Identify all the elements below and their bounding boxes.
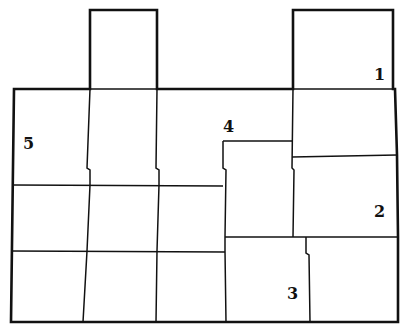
region-label-3: 3 [287, 286, 298, 302]
county-lines [12, 89, 398, 322]
region-label-2: 2 [374, 204, 385, 220]
region-label-1: 1 [374, 67, 385, 83]
region-label-4: 4 [223, 119, 234, 135]
outer-boundary [11, 10, 398, 322]
region-label-5: 5 [23, 136, 34, 152]
region-map [0, 0, 406, 334]
